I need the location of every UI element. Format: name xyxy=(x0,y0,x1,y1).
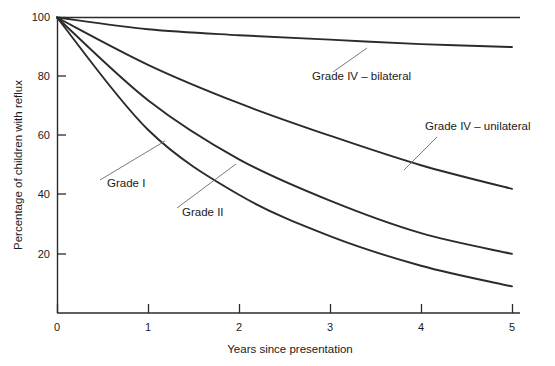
x-tick-label-3: 3 xyxy=(327,321,333,333)
y-axis-ticks xyxy=(57,18,66,255)
series-label-grade-1: Grade I xyxy=(107,177,145,189)
series-line-1 xyxy=(57,18,512,189)
leader-line-grade-4-bilateral xyxy=(333,48,367,72)
chart-figure: 100 80 60 40 20 0 1 2 3 4 5 Years since … xyxy=(0,0,555,366)
x-axis-title: Years since presentation xyxy=(227,343,353,355)
leader-line-grade-1 xyxy=(100,141,165,180)
x-axis-ticks xyxy=(58,304,513,313)
y-axis-tick-labels: 100 80 60 40 20 xyxy=(32,11,50,260)
series-line-0 xyxy=(57,18,512,48)
leader-line-grade-2 xyxy=(177,164,236,208)
series-line-3 xyxy=(57,18,512,287)
x-axis-tick-labels: 0 1 2 3 4 5 xyxy=(54,321,515,333)
series-label-grade-4-bilateral: Grade IV – bilateral xyxy=(312,70,411,82)
y-tick-label-20: 20 xyxy=(38,248,50,260)
y-axis-title: Percentage of children with reflux xyxy=(12,80,24,250)
series-annotations: Grade IGrade IIGrade IV – bilateralGrade… xyxy=(100,48,530,218)
reflux-resolution-line-chart: 100 80 60 40 20 0 1 2 3 4 5 Years since … xyxy=(0,0,555,366)
y-tick-label-60: 60 xyxy=(38,129,50,141)
series-label-grade-4-unilateral: Grade IV – unilateral xyxy=(425,120,530,132)
x-tick-label-5: 5 xyxy=(509,321,515,333)
x-tick-label-4: 4 xyxy=(418,321,424,333)
x-tick-label-1: 1 xyxy=(145,321,151,333)
y-tick-label-100: 100 xyxy=(32,11,50,23)
series-label-grade-2: Grade II xyxy=(182,206,224,218)
y-tick-label-80: 80 xyxy=(38,70,50,82)
x-tick-label-2: 2 xyxy=(236,321,242,333)
data-curves xyxy=(57,18,512,287)
y-tick-label-40: 40 xyxy=(38,188,50,200)
x-tick-label-0: 0 xyxy=(54,321,60,333)
